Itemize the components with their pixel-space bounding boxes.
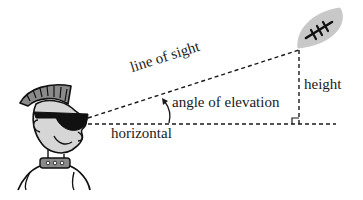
- horizontal-label: horizontal: [111, 126, 172, 141]
- football-icon: [298, 8, 343, 48]
- angle-of-elevation-diagram: line of sight angle of elevation horizon…: [0, 0, 363, 200]
- observer-figure: [18, 85, 90, 190]
- angle-of-elevation-label: angle of elevation: [172, 95, 279, 110]
- right-angle-marker: [292, 118, 299, 124]
- height-label: height: [304, 77, 342, 92]
- angle-arc-icon: [162, 98, 170, 123]
